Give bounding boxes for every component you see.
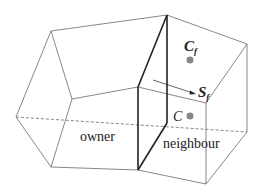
face-centroid-point — [187, 57, 194, 64]
hidden-edge — [16, 117, 247, 132]
owner-cell — [16, 15, 167, 170]
owner-label: owner — [80, 129, 115, 144]
face-area-vector-label: Sf — [198, 84, 210, 102]
cell-centre-point — [187, 113, 194, 120]
mesh-diagram: Cf Sf C owner neighbour — [0, 0, 259, 193]
face-centroid-label: Cf — [184, 38, 198, 56]
cell-centre-label: C — [173, 109, 183, 124]
neighbour-label: neighbour — [163, 136, 220, 151]
